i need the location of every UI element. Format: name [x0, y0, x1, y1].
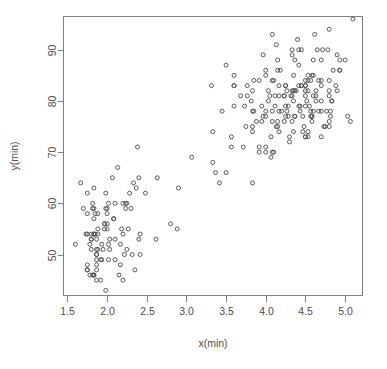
plot-canvas: 1.52.02.53.03.54.04.55.0 5060708090 x(mi…: [0, 0, 387, 369]
x-tick-label: 4.5: [298, 305, 313, 317]
y-tick-label: 60: [46, 198, 58, 210]
scatter-plot-figure: 1.52.02.53.03.54.04.55.0 5060708090 x(mi…: [0, 0, 387, 369]
x-tick-label: 3.5: [219, 305, 234, 317]
x-tick-label: 2.5: [140, 305, 155, 317]
x-tick-label: 1.5: [60, 305, 75, 317]
y-tick-label: 50: [46, 250, 58, 262]
y-axis-title: y(min): [8, 141, 20, 170]
x-tick-label: 3.0: [179, 305, 194, 317]
x-tick-label: 4.0: [259, 305, 274, 317]
y-tick-label: 80: [46, 96, 58, 108]
x-tick-label: 2.0: [100, 305, 115, 317]
y-tick-label: 70: [46, 147, 58, 159]
x-axis-title: x(min): [198, 337, 227, 349]
x-tick-label: 5.0: [338, 305, 353, 317]
y-tick-label: 90: [46, 45, 58, 57]
